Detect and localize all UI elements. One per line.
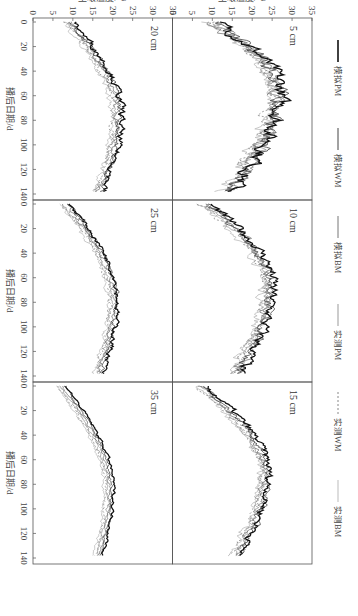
series-line xyxy=(67,204,116,374)
svg-text:模拟BM: 模拟BM xyxy=(333,242,343,274)
y-axis-title: 土壤温度/℃ xyxy=(218,0,267,3)
svg-text:120: 120 xyxy=(19,163,29,177)
series-line xyxy=(204,386,270,556)
svg-text:35: 35 xyxy=(168,6,178,16)
legend-entry: 模拟PM xyxy=(333,40,343,97)
svg-text:120: 120 xyxy=(19,527,29,541)
panel-label: 10 cm xyxy=(288,208,299,233)
series-line xyxy=(68,22,120,192)
series-line xyxy=(220,22,291,192)
svg-text:40: 40 xyxy=(19,67,29,77)
svg-text:0: 0 xyxy=(19,20,29,25)
svg-text:实测BM: 实测BM xyxy=(333,506,343,538)
rotated-figure: 模拟PM模拟WM模拟BM实测PM实测WM实测BM5 cm10 cm15 cm20… xyxy=(0,0,358,616)
panel-10cm: 10 cm xyxy=(173,200,313,382)
panel-25cm: 25 cm xyxy=(33,200,173,382)
svg-text:0: 0 xyxy=(28,11,38,16)
svg-text:模拟WM: 模拟WM xyxy=(333,154,343,188)
soil-temperature-chart: 模拟PM模拟WM模拟BM实测PM实测WM实测BM5 cm10 cm15 cm20… xyxy=(0,0,358,616)
svg-text:60: 60 xyxy=(19,273,29,283)
svg-text:20: 20 xyxy=(108,6,118,16)
svg-text:20: 20 xyxy=(19,224,29,234)
svg-text:10: 10 xyxy=(207,6,217,16)
svg-text:140: 140 xyxy=(19,369,29,383)
svg-text:100: 100 xyxy=(19,502,29,516)
series-line xyxy=(63,386,111,556)
x-axis-title: 播后日期/d xyxy=(5,451,16,495)
panel-label: 5 cm xyxy=(288,26,299,46)
panel-label: 25 cm xyxy=(149,208,160,233)
svg-text:0: 0 xyxy=(19,202,29,207)
svg-text:模拟PM: 模拟PM xyxy=(333,66,343,97)
legend-entry: 实测WM xyxy=(333,392,343,452)
svg-text:20: 20 xyxy=(19,42,29,52)
svg-text:120: 120 xyxy=(19,345,29,359)
series-line xyxy=(201,386,267,556)
svg-text:20: 20 xyxy=(19,406,29,416)
panel-20cm: 20 cm xyxy=(33,18,173,200)
legend: 模拟PM模拟WM模拟BM实测PM实测WM实测BM xyxy=(333,40,343,538)
series-line xyxy=(56,386,105,556)
svg-text:80: 80 xyxy=(19,298,29,308)
svg-text:实测WM: 实测WM xyxy=(333,418,343,452)
series-line xyxy=(201,22,276,192)
y-axis-title: 土壤温度/℃ xyxy=(78,0,127,3)
panel-label: 20 cm xyxy=(149,26,160,51)
svg-text:10: 10 xyxy=(68,6,78,16)
legend-entry: 模拟BM xyxy=(333,216,343,274)
legend-entry: 实测PM xyxy=(333,304,343,361)
svg-text:25: 25 xyxy=(267,6,277,16)
svg-text:实测PM: 实测PM xyxy=(333,330,343,361)
svg-text:60: 60 xyxy=(19,91,29,101)
series-line xyxy=(199,386,268,556)
svg-text:20: 20 xyxy=(247,6,257,16)
x-axis-title: 播后日期/d xyxy=(5,269,16,313)
svg-text:15: 15 xyxy=(227,6,237,16)
x-axis: 020406080100120140播后日期/d0204060801001201… xyxy=(5,20,36,566)
series-line xyxy=(196,386,263,556)
svg-text:5: 5 xyxy=(187,11,197,16)
svg-text:25: 25 xyxy=(128,6,138,16)
svg-text:80: 80 xyxy=(19,480,29,490)
svg-text:40: 40 xyxy=(19,431,29,441)
series-line xyxy=(197,204,268,374)
svg-text:40: 40 xyxy=(19,249,29,259)
svg-text:60: 60 xyxy=(19,455,29,465)
svg-text:140: 140 xyxy=(19,551,29,565)
svg-text:15: 15 xyxy=(88,6,98,16)
legend-entry: 模拟WM xyxy=(333,128,343,188)
series-line xyxy=(211,204,278,374)
panel-35cm: 35 cm xyxy=(33,382,173,564)
series-line xyxy=(198,204,269,374)
x-axis-title: 播后日期/d xyxy=(5,87,16,131)
panel-15cm: 15 cm xyxy=(173,382,313,564)
svg-text:80: 80 xyxy=(19,116,29,126)
series-line xyxy=(66,386,116,556)
svg-text:140: 140 xyxy=(19,187,29,201)
panel-5cm: 5 cm xyxy=(173,18,313,200)
svg-text:5: 5 xyxy=(48,11,58,16)
svg-text:0: 0 xyxy=(19,384,29,389)
panel-label: 35 cm xyxy=(149,390,160,415)
svg-text:100: 100 xyxy=(19,138,29,152)
svg-text:30: 30 xyxy=(148,6,158,16)
series-line xyxy=(69,22,121,192)
svg-text:30: 30 xyxy=(287,6,297,16)
legend-entry: 实测BM xyxy=(333,480,343,538)
svg-text:35: 35 xyxy=(307,6,317,16)
svg-text:100: 100 xyxy=(19,320,29,334)
panel-label: 15 cm xyxy=(288,390,299,415)
